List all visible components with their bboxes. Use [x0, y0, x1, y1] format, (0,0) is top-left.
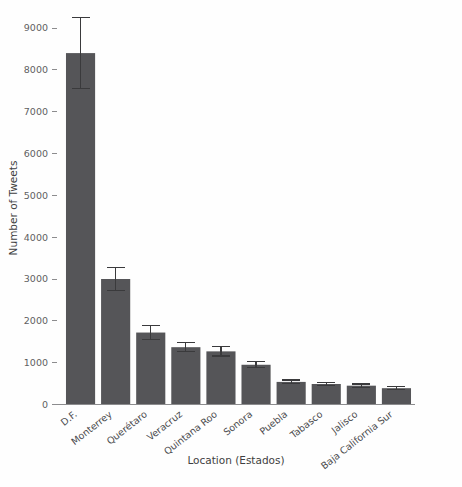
- bar-3: [171, 347, 200, 404]
- y-tick-label: 5000: [24, 190, 48, 201]
- y-tick-label: 0: [42, 399, 48, 410]
- bar-chart-figure: 0100020003000400050006000700080009000 D.…: [0, 0, 462, 487]
- bar-6: [277, 382, 306, 405]
- bar-9: [382, 388, 411, 404]
- bar-1: [101, 279, 130, 405]
- y-tick-label: 8000: [24, 64, 48, 75]
- y-tick-label: 1000: [24, 357, 48, 368]
- bar-7: [312, 384, 341, 405]
- bar-4: [206, 351, 235, 404]
- x-axis-title: Location (Estados): [187, 454, 284, 466]
- chart-canvas: 0100020003000400050006000700080009000 D.…: [0, 0, 462, 487]
- y-axis-title: Number of Tweets: [7, 161, 19, 256]
- y-tick-label: 7000: [24, 106, 48, 117]
- bar-5: [241, 365, 270, 405]
- bar-8: [347, 386, 376, 405]
- bar-2: [136, 333, 165, 405]
- y-tick-label: 4000: [24, 232, 48, 243]
- bar-0: [66, 53, 95, 404]
- y-tick-label: 6000: [24, 148, 48, 159]
- y-tick-label: 9000: [24, 22, 48, 33]
- y-tick-label: 3000: [24, 273, 48, 284]
- y-tick-label: 2000: [24, 315, 48, 326]
